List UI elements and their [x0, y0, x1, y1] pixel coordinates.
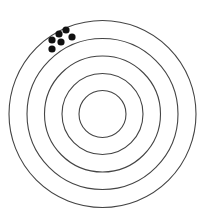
shot-dot — [48, 45, 55, 52]
shot-dot — [57, 38, 64, 45]
target-diagram — [0, 0, 207, 220]
ring-4 — [27, 39, 178, 190]
shot-dot — [68, 33, 75, 40]
ring-5 — [9, 21, 196, 208]
ring-2 — [62, 74, 143, 155]
shot-dot — [62, 26, 69, 33]
target-rings — [9, 21, 196, 208]
shot-dot — [55, 30, 62, 37]
shot-dot — [48, 36, 55, 43]
ring-1 — [79, 91, 126, 138]
